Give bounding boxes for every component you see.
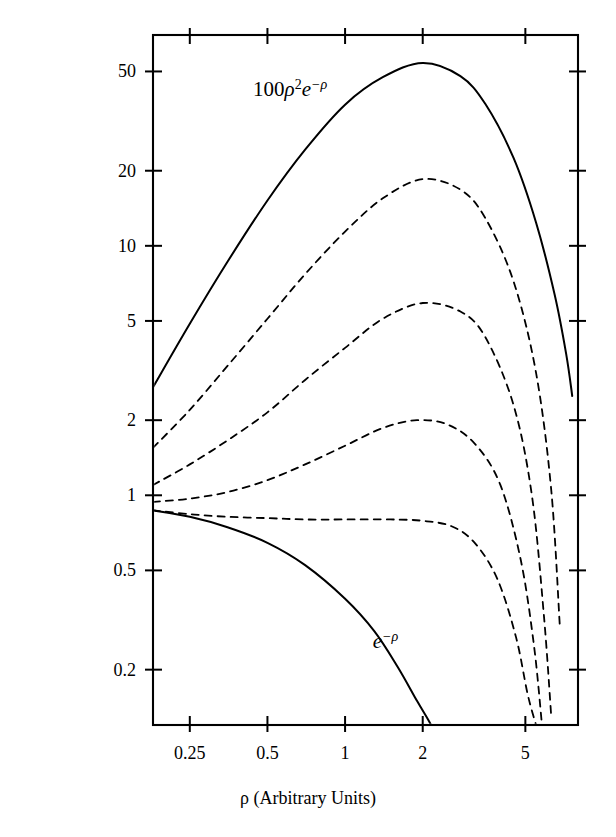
curve-curve-4-dashed	[153, 420, 542, 725]
curve-curve-2-dashed	[153, 179, 560, 626]
axis-ticks	[145, 28, 586, 732]
y-tick-label: 0.2	[114, 660, 137, 680]
x-axis-label: ρ (Arbitrary Units)	[0, 788, 616, 809]
x-tick-label: 1	[341, 743, 350, 763]
x-axis-label-text: ρ (Arbitrary Units)	[240, 788, 376, 808]
curve-exp-rho-	[153, 510, 433, 729]
y-tick-label: 5	[127, 311, 136, 331]
curve-curve-5-dashed	[153, 510, 536, 725]
plot-area: 0.250.51250.20.5125102050 100ρ2e−ρe−ρ	[0, 0, 616, 837]
y-tick-label: 20	[118, 161, 136, 181]
data-curves	[153, 63, 572, 730]
y-axis-label: SENSITIVITY (Arbitrary Units)	[0, 0, 40, 837]
x-tick-label: 5	[521, 743, 530, 763]
upper-curve-label: 100ρ2e−ρ	[253, 76, 327, 101]
y-tick-label: 10	[118, 236, 136, 256]
x-tick-label: 0.5	[256, 743, 279, 763]
y-tick-label: 2	[127, 410, 136, 430]
y-tick-label: 0.5	[114, 560, 137, 580]
axis-tick-labels: 0.250.51250.20.5125102050	[114, 61, 530, 763]
figure-canvas: SENSITIVITY (Arbitrary Units) ρ (Arbitra…	[0, 0, 616, 837]
curve-curve-3-dashed	[153, 303, 551, 717]
y-tick-label: 50	[118, 61, 136, 81]
x-tick-label: 0.25	[174, 743, 206, 763]
svg-text:100ρ2e−ρ: 100ρ2e−ρ	[253, 76, 327, 101]
curve-100-rho-2-exp-rho-	[153, 63, 572, 396]
x-tick-label: 2	[418, 743, 427, 763]
y-tick-label: 1	[127, 485, 136, 505]
curve-annotations: 100ρ2e−ρe−ρ	[253, 76, 398, 653]
